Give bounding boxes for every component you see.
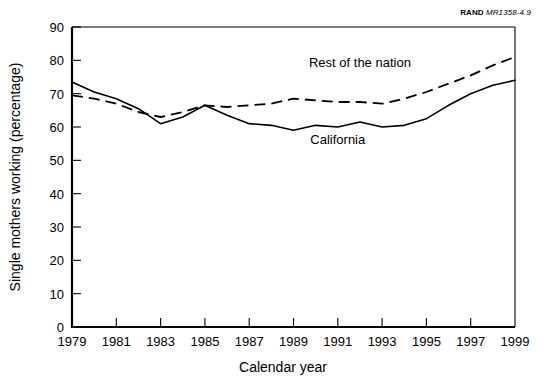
x-axis-ticks [116,318,470,327]
x-tick-label: 1999 [501,334,530,349]
y-axis-ticks [72,27,81,327]
series-label-california: California [310,132,366,147]
y-tick-label: 90 [50,20,64,35]
x-tick-label: 1997 [456,334,485,349]
series-label-rest-of-the-nation: Rest of the nation [309,55,411,70]
y-tick-label: 10 [50,287,64,302]
y-tick-label: 50 [50,153,64,168]
source-tag: RAND MR1358-4.9 [460,8,531,17]
x-tick-label: 1993 [368,334,397,349]
source-brand: RAND [460,8,484,17]
x-tick-label: 1985 [190,334,219,349]
x-axis-tick-labels: 1979198119831985198719891991199319951997… [58,334,530,349]
x-tick-label: 1991 [323,334,352,349]
x-tick-label: 1987 [235,334,264,349]
y-axis-title: Single mothers working (percentage) [7,63,23,292]
data-series-group [72,57,515,130]
x-tick-label: 1989 [279,334,308,349]
x-tick-label: 1983 [146,334,175,349]
y-tick-label: 40 [50,187,64,202]
y-axis-tick-labels: 0102030405060708090 [50,20,64,335]
plot-axes [72,27,515,327]
x-tick-label: 1981 [102,334,131,349]
y-tick-label: 70 [50,87,64,102]
y-tick-label: 20 [50,253,64,268]
y-tick-label: 80 [50,53,64,68]
x-axis-title: Calendar year [239,359,327,375]
line-chart-svg: 0102030405060708090 19791981198319851987… [0,0,545,386]
series-line-california [72,80,515,130]
plot-frame [72,27,515,327]
x-tick-label: 1979 [58,334,87,349]
y-tick-label: 60 [50,120,64,135]
y-tick-label: 30 [50,220,64,235]
chart-figure: RAND MR1358-4.9 0102030405060708090 1979… [0,0,545,386]
source-doc-id: MR1358-4.9 [486,8,531,17]
x-tick-label: 1995 [412,334,441,349]
y-tick-label: 0 [57,320,64,335]
